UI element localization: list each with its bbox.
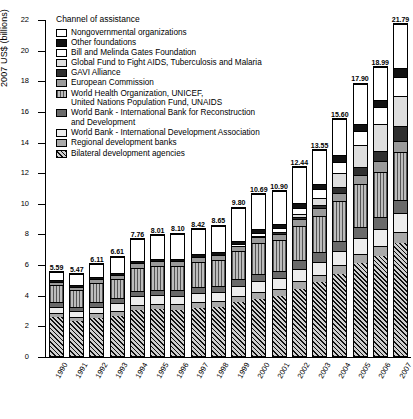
y-tick-mark bbox=[38, 51, 45, 52]
bar-segment bbox=[273, 191, 286, 224]
bar-segment bbox=[212, 226, 225, 253]
legend-label: Nongovernmental organizations bbox=[71, 28, 187, 38]
y-tick: 4 bbox=[38, 296, 39, 297]
y-tick: 20 bbox=[38, 51, 39, 52]
legend-swatch-icon bbox=[56, 150, 67, 158]
y-tick-label: 18 bbox=[7, 76, 29, 85]
x-tick-label: 2001 bbox=[275, 361, 291, 380]
legend-swatch-icon bbox=[56, 139, 67, 147]
legend-label: World Health Organization, UNICEF,United… bbox=[71, 89, 222, 108]
bar-segment bbox=[252, 281, 265, 292]
bar: 13.55 bbox=[312, 149, 327, 357]
bar-segment bbox=[394, 243, 407, 356]
legend-label: World Bank - International Bank for Reco… bbox=[71, 108, 255, 127]
bar-segment bbox=[374, 246, 387, 256]
bar-segment bbox=[374, 107, 387, 124]
bar-segment bbox=[313, 189, 326, 197]
bar-segment bbox=[252, 292, 265, 299]
x-tick-label: 1996 bbox=[174, 361, 190, 380]
legend-label: Global Fund to Fight AIDS, Tuberculosis … bbox=[71, 58, 262, 68]
bar: 9.80 bbox=[231, 207, 246, 357]
x-tick-label: 2003 bbox=[316, 361, 332, 380]
legend-label: Bill and Melinda Gates Foundation bbox=[71, 48, 196, 58]
legend-item: Regional development banks bbox=[56, 138, 346, 148]
legend-item: Nongovernmental organizations bbox=[56, 28, 346, 38]
bar-segment bbox=[151, 266, 164, 290]
bar-segment bbox=[333, 274, 346, 356]
bar-segment bbox=[212, 292, 225, 301]
y-tick-label: 12 bbox=[7, 168, 29, 177]
bar-value-label: 9.80 bbox=[232, 199, 246, 206]
bar: 6.61 bbox=[110, 256, 125, 357]
bar-segment bbox=[313, 262, 326, 275]
bar-segment bbox=[90, 283, 103, 302]
bar-segment bbox=[232, 251, 245, 279]
legend-label-line2: United Nations Population Fund, UNAIDS bbox=[71, 98, 222, 108]
y-tick: 0 bbox=[38, 357, 39, 358]
legend-item: World Health Organization, UNICEF,United… bbox=[56, 89, 346, 108]
bar-segment bbox=[333, 162, 346, 173]
bar-segment bbox=[131, 310, 144, 356]
bar-segment bbox=[252, 299, 265, 356]
x-tick-label: 1997 bbox=[194, 361, 210, 380]
bar-segment bbox=[394, 213, 407, 232]
y-tick-mark bbox=[38, 357, 45, 358]
x-tick-label: 2007 bbox=[397, 361, 413, 380]
legend-item: World Bank - International Development A… bbox=[56, 128, 346, 138]
bar: 10.90 bbox=[272, 190, 287, 357]
bar-segment bbox=[354, 227, 367, 238]
bar-segment bbox=[333, 265, 346, 274]
y-tick: 18 bbox=[38, 81, 39, 82]
bar: 7.76 bbox=[130, 238, 145, 357]
bar-segment bbox=[111, 316, 124, 357]
bar-segment bbox=[313, 275, 326, 283]
y-tick-mark bbox=[38, 112, 45, 113]
legend: Channel of assistance Nongovernmental or… bbox=[56, 14, 346, 159]
x-tick-label: 1992 bbox=[93, 361, 109, 380]
bar-segment bbox=[273, 289, 286, 296]
legend-swatch-icon bbox=[56, 39, 67, 47]
bar: 8.10 bbox=[170, 233, 185, 357]
bar-segment bbox=[192, 308, 205, 356]
bar-segment bbox=[90, 307, 103, 314]
bar-segment bbox=[313, 198, 326, 205]
bar: 17.90 bbox=[353, 83, 368, 357]
bar-segment bbox=[394, 200, 407, 213]
bar-value-label: 8.01 bbox=[151, 227, 165, 234]
x-tick-label: 1991 bbox=[73, 361, 89, 380]
bar: 8.42 bbox=[191, 228, 206, 357]
bar-segment bbox=[333, 251, 346, 265]
bar-segment bbox=[354, 184, 367, 227]
legend-label: World Bank - International Development A… bbox=[71, 128, 260, 138]
bar-segment bbox=[354, 238, 367, 254]
x-tick-label: 1998 bbox=[215, 361, 231, 380]
bar-value-label: 17.90 bbox=[351, 75, 369, 82]
bar-value-label: 8.10 bbox=[171, 225, 185, 232]
bar-segment bbox=[354, 145, 367, 167]
bar: 5.59 bbox=[49, 271, 64, 357]
x-tick-label: 1994 bbox=[134, 361, 150, 380]
x-tick-label: 2004 bbox=[336, 361, 352, 380]
y-tick: 10 bbox=[38, 204, 39, 205]
bar-segment bbox=[252, 243, 265, 273]
y-tick-mark bbox=[38, 265, 45, 266]
bar-segment bbox=[394, 141, 407, 152]
bar: 18.99 bbox=[373, 66, 388, 357]
bar-segment bbox=[313, 216, 326, 252]
x-tick-label: 1993 bbox=[114, 361, 130, 380]
bar-segment bbox=[374, 217, 387, 229]
legend-label: Bilateral development agencies bbox=[71, 149, 185, 159]
stacked-bar-chart: 2007 US$ (billions) 0246810121416182022 … bbox=[0, 0, 413, 419]
bar-segment bbox=[212, 260, 225, 286]
bar-segment bbox=[50, 285, 63, 302]
bar-value-label: 8.65 bbox=[212, 217, 226, 224]
bar-segment bbox=[70, 321, 83, 356]
bar-segment bbox=[374, 172, 387, 217]
legend-swatch-icon bbox=[56, 29, 67, 37]
legend-swatch-icon bbox=[56, 90, 67, 98]
legend-swatch-icon bbox=[56, 79, 67, 87]
legend-item: Bilateral development agencies bbox=[56, 149, 346, 159]
bar-segment bbox=[374, 124, 387, 151]
y-tick-mark bbox=[38, 20, 45, 21]
bar-segment bbox=[394, 96, 407, 126]
